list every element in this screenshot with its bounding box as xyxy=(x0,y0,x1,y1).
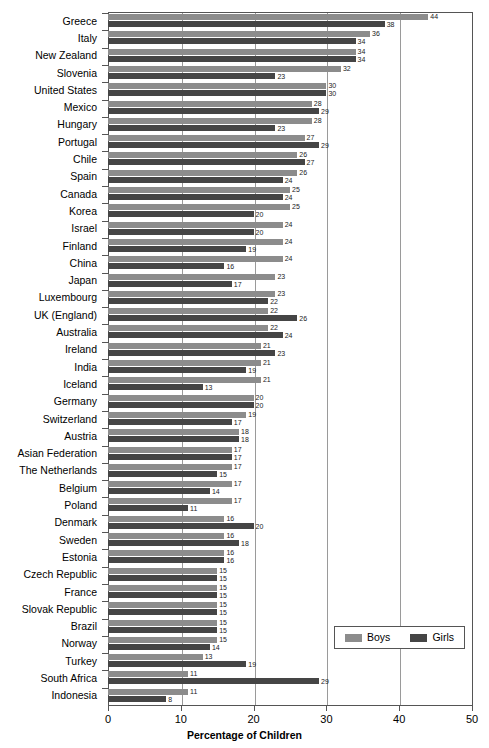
bar-girls xyxy=(108,436,239,442)
bar-boys xyxy=(108,464,232,470)
bar-girls xyxy=(108,281,232,287)
bar-boys xyxy=(108,291,275,297)
bar-value-label: 20 xyxy=(256,229,264,236)
bar-boys xyxy=(108,274,275,280)
bar-value-label: 29 xyxy=(321,678,329,685)
bar-value-label: 20 xyxy=(256,211,264,218)
y-axis-label-portugal: Portugal xyxy=(58,137,97,148)
bar-girls xyxy=(108,177,283,183)
bar-value-label: 23 xyxy=(277,290,285,297)
chart-title-clipped xyxy=(0,0,489,8)
bar-boys xyxy=(108,239,283,245)
bar-value-label: 11 xyxy=(190,670,197,677)
y-axis-label-mexico: Mexico xyxy=(64,102,97,113)
bar-boys xyxy=(108,585,217,591)
bar-girls xyxy=(108,56,356,62)
y-axis-label-austria: Austria xyxy=(64,431,97,442)
bar-group: 2119 xyxy=(108,359,472,376)
bar-value-label: 15 xyxy=(219,601,227,608)
bar-value-label: 28 xyxy=(314,117,322,124)
bar-value-label: 27 xyxy=(307,159,315,166)
legend-item-girls: Girls xyxy=(410,632,454,643)
x-axis-tick-label: 30 xyxy=(320,713,332,725)
bar-value-label: 30 xyxy=(328,82,336,89)
bar-group: 2226 xyxy=(108,307,472,324)
bar-girls xyxy=(108,540,239,546)
bar-value-label: 24 xyxy=(285,221,293,228)
y-axis-label-united-states: United States xyxy=(34,85,97,96)
bar-value-label: 16 xyxy=(226,549,234,556)
legend-label-girls: Girls xyxy=(432,632,454,643)
chart-legend: Boys Girls xyxy=(334,626,465,649)
y-axis-label-chile: Chile xyxy=(73,154,97,165)
bar-boys xyxy=(108,49,356,55)
bar-value-label: 15 xyxy=(219,471,227,478)
bar-boys xyxy=(108,135,305,141)
bar-girls xyxy=(108,315,297,321)
y-axis-label-france: France xyxy=(64,587,97,598)
y-axis-label-israel: Israel xyxy=(71,223,97,234)
bar-value-label: 15 xyxy=(219,592,227,599)
bar-girls xyxy=(108,678,319,684)
bar-value-label: 28 xyxy=(314,100,322,107)
bar-group: 2524 xyxy=(108,186,472,203)
bar-value-label: 38 xyxy=(387,21,395,28)
bar-value-label: 15 xyxy=(219,575,227,582)
bar-value-label: 24 xyxy=(285,194,293,201)
bar-value-label: 20 xyxy=(256,394,264,401)
bar-value-label: 11 xyxy=(190,688,197,695)
y-axis-label-brazil: Brazil xyxy=(71,621,97,632)
bar-value-label: 25 xyxy=(292,203,300,210)
bar-value-label: 29 xyxy=(321,108,329,115)
bar-value-label: 14 xyxy=(212,488,220,495)
bar-boys xyxy=(108,31,370,37)
bar-group: 1818 xyxy=(108,428,472,445)
x-axis-tick xyxy=(108,706,109,711)
bar-group: 2419 xyxy=(108,238,472,255)
y-axis-label-china: China xyxy=(70,258,97,269)
bar-girls xyxy=(108,696,166,702)
bar-boys xyxy=(108,204,290,210)
bar-group: 1714 xyxy=(108,480,472,497)
y-axis-label-luxembourg: Luxembourg xyxy=(39,292,97,303)
bar-chart: GreeceItalyNew ZealandSloveniaUnited Sta… xyxy=(0,0,489,748)
bar-girls xyxy=(108,419,232,425)
bar-value-label: 23 xyxy=(277,125,285,132)
bar-group: 1618 xyxy=(108,532,472,549)
bar-value-label: 29 xyxy=(321,142,329,149)
bar-value-label: 18 xyxy=(241,540,249,547)
bar-value-label: 17 xyxy=(234,497,242,504)
bar-boys xyxy=(108,498,232,504)
bar-group: 3434 xyxy=(108,48,472,65)
bar-group: 2322 xyxy=(108,290,472,307)
y-axis-label-australia: Australia xyxy=(56,327,97,338)
bar-girls xyxy=(108,609,217,615)
bar-value-label: 17 xyxy=(234,419,242,426)
bar-value-label: 30 xyxy=(328,90,336,97)
bar-boys xyxy=(108,412,246,418)
bar-group: 2416 xyxy=(108,255,472,272)
bar-value-label: 24 xyxy=(285,238,293,245)
bar-girls xyxy=(108,298,268,304)
y-axis-label-finland: Finland xyxy=(63,241,97,252)
bar-value-label: 34 xyxy=(358,56,366,63)
bar-girls xyxy=(108,194,283,200)
bar-value-label: 16 xyxy=(226,557,234,564)
bar-group: 1319 xyxy=(108,653,472,670)
y-axis-label-sweden: Sweden xyxy=(59,535,97,546)
x-axis-tick xyxy=(472,706,473,711)
y-axis-label-czech-republic: Czech Republic xyxy=(23,569,97,580)
bar-girls xyxy=(108,592,217,598)
x-axis-tick xyxy=(399,706,400,711)
x-axis-tick xyxy=(181,706,182,711)
bar-boys xyxy=(108,325,268,331)
bar-girls xyxy=(108,90,326,96)
bar-boys xyxy=(108,360,261,366)
y-axis-label-new-zealand: New Zealand xyxy=(35,50,97,61)
bar-value-label: 34 xyxy=(358,38,366,45)
x-axis-tick-label: 10 xyxy=(175,713,187,725)
bar-group: 1717 xyxy=(108,446,472,463)
y-axis-label-italy: Italy xyxy=(78,33,97,44)
bar-value-label: 19 xyxy=(248,661,256,668)
bar-group: 4438 xyxy=(108,13,472,30)
